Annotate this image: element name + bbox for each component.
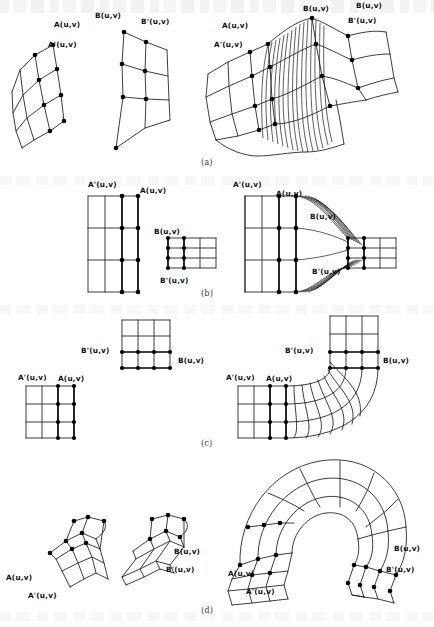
patch-b-source-a [114, 30, 170, 151]
label-a-prime-b2: A'(u,v) [233, 181, 262, 188]
blend-elbow-c [286, 362, 378, 438]
blend-isolines-a [262, 18, 332, 152]
label-a-c1: A(u,v) [58, 375, 84, 382]
subfigure-d-graphics [0, 455, 434, 620]
label-a-prime-d1: A'(u,v) [28, 592, 57, 599]
label-b-prime-c1: B'(u,v) [81, 347, 110, 354]
label-b-prime-d2: B'(u,v) [386, 566, 415, 573]
patch-b-source-c [120, 320, 172, 370]
blended-surface-c [238, 316, 380, 440]
label-b-prime-b1: B'(u,v) [160, 277, 189, 284]
figure-page: B(u,v) [0, 0, 434, 627]
label-b-a2: B(u,v) [303, 5, 329, 12]
caption-a: (a) [201, 157, 213, 167]
control-points-b [114, 30, 149, 151]
patch-a-source-d [48, 515, 108, 587]
patch-a-source-b [88, 194, 140, 295]
blended-surface-d [228, 460, 407, 605]
label-a-prime-b1: A'(u,v) [88, 181, 117, 188]
label-a-c2: A(u,v) [266, 375, 292, 382]
caption-b: (b) [201, 288, 213, 298]
label-b-d2: B(u,v) [394, 545, 420, 552]
label-a-b1: A(u,v) [140, 187, 166, 194]
label-b-prime-a1: B'(u,v) [141, 18, 170, 25]
blended-surface-a [206, 16, 398, 156]
label-b-c1: B(u,v) [178, 357, 204, 364]
label-b-b2: B(u,v) [310, 213, 336, 220]
label-a-prime-c2: A'(u,v) [226, 374, 255, 381]
label-a-a2: A(u,v) [222, 22, 248, 29]
blended-surface-b [245, 194, 396, 295]
label-a-prime-c1: A'(u,v) [18, 374, 47, 381]
label-b-prime-d1: B'(u,v) [166, 566, 195, 573]
label-a-prime-a2: A'(u,v) [214, 41, 243, 48]
blend-isolines-b [296, 196, 362, 292]
label-a-prime-d2: A'(u,v) [246, 588, 275, 595]
label-a-prime-a1: A'(u,v) [48, 41, 77, 48]
label-a-d1: A(u,v) [6, 574, 32, 581]
label-b-prime-c2: B'(u,v) [285, 347, 314, 354]
caption-d: (d) [201, 605, 213, 615]
label-b-b1: B(u,v) [154, 228, 180, 235]
label-a-d2: A(u,v) [228, 570, 254, 577]
label-b-c2: B(u,v) [383, 357, 409, 364]
label-b-a1: B(u,v) [95, 12, 121, 19]
control-points-a [33, 43, 67, 134]
patch-b-source-b [166, 236, 216, 270]
label-b-prime-b2: B'(u,v) [312, 268, 341, 275]
label-a-b2: A(u,v) [276, 190, 302, 197]
patch-a-source-a [12, 43, 66, 148]
label-b-d1: B(u,v) [174, 548, 200, 555]
subfigure-b-graphics [0, 180, 434, 310]
label-a-a1: A(u,v) [54, 21, 80, 28]
label-b-prime-a2: B'(u,v) [348, 17, 377, 24]
patch-a-source-c [26, 384, 76, 440]
caption-c: (c) [201, 438, 212, 448]
